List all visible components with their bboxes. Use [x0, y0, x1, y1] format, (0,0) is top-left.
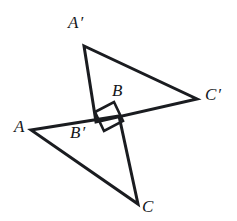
- vertex-label-B-prime: B′: [70, 124, 85, 141]
- vertex-label-A: A: [14, 118, 25, 135]
- vertex-label-A-prime-text: A: [68, 13, 78, 32]
- prime-mark-B: ′: [80, 123, 85, 142]
- vertex-label-C: C: [142, 198, 154, 215]
- triangle-A-prime-B-prime-C-prime-group: [84, 46, 197, 122]
- prime-mark-A-none: [24, 117, 25, 136]
- vertex-label-C-text: C: [142, 197, 153, 216]
- vertex-label-A-text: A: [14, 117, 24, 136]
- prime-mark-C: ′: [216, 85, 221, 104]
- geometry-figure: A′ C′ B B′ A C: [0, 0, 237, 221]
- figure-canvas: [0, 0, 237, 221]
- vertex-label-C-prime: C′: [205, 86, 221, 103]
- prime-mark-C-none: [153, 197, 154, 216]
- vertex-label-B-prime-text: B: [70, 123, 80, 142]
- vertex-label-B: B: [112, 82, 123, 99]
- vertex-label-A-prime: A′: [68, 14, 83, 31]
- vertex-label-C-prime-text: C: [205, 85, 216, 104]
- prime-mark-B-none: [122, 81, 123, 100]
- prime-mark-A: ′: [78, 13, 83, 32]
- vertex-label-B-text: B: [112, 81, 122, 100]
- triangle-A-prime-B-prime-C-prime: [84, 46, 197, 122]
